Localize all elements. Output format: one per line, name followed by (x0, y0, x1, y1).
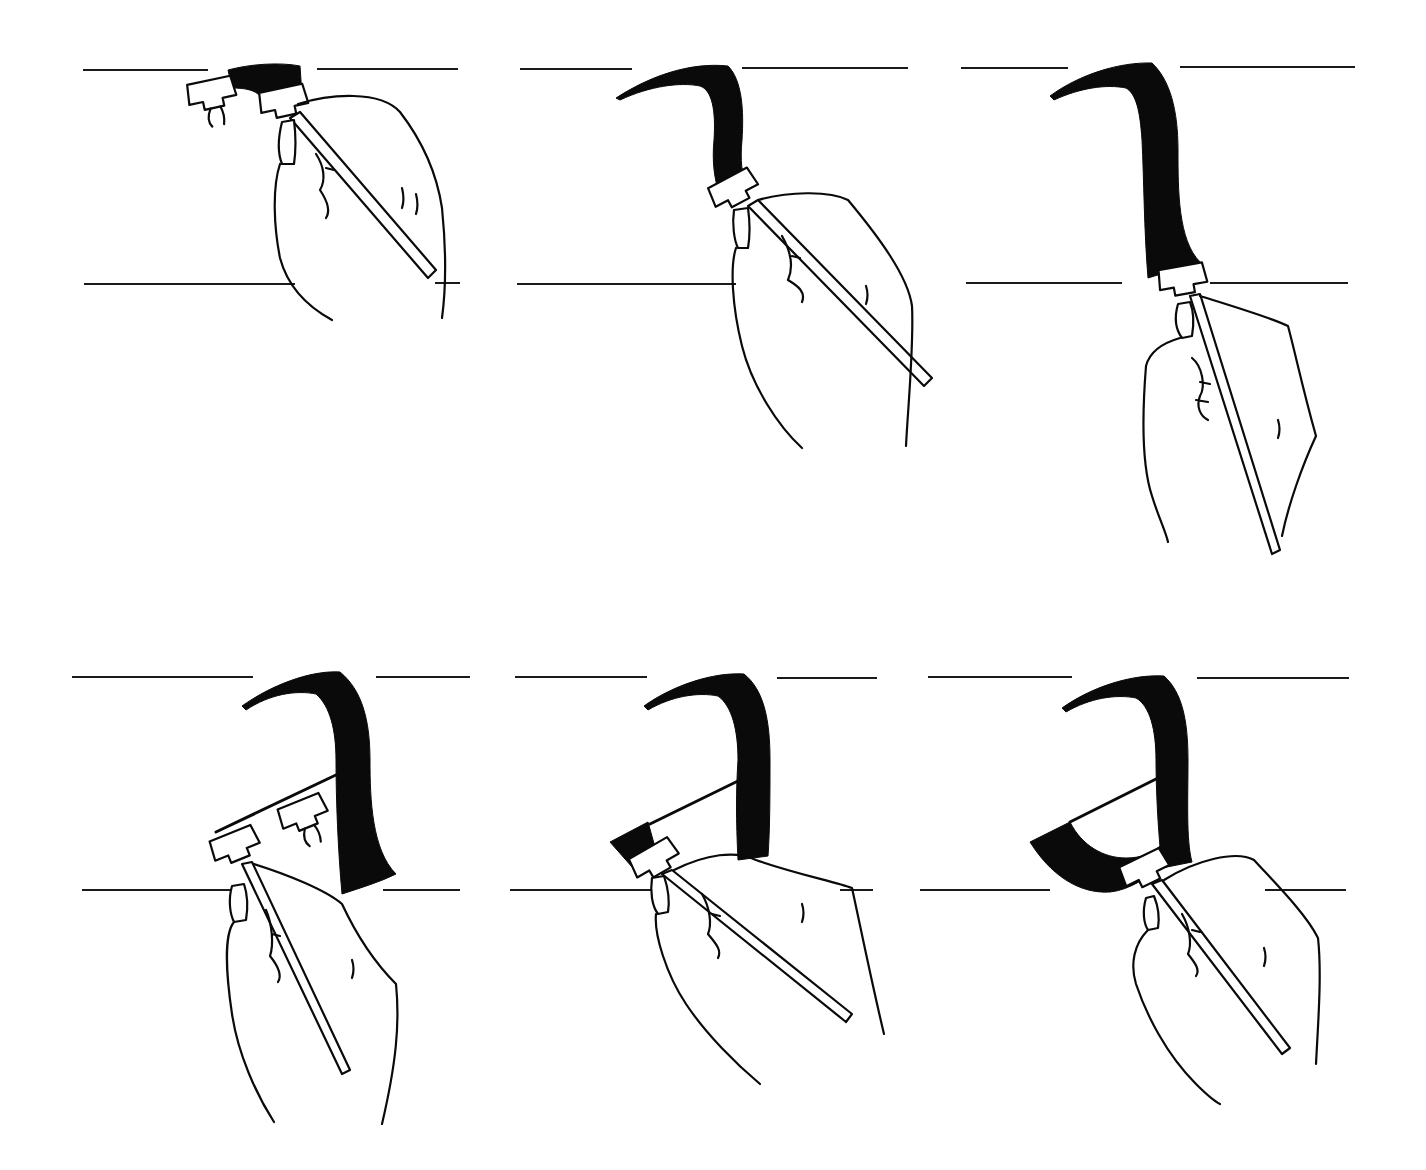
panel-6 (920, 676, 1349, 1104)
ink-stroke (616, 65, 746, 195)
panel-4 (72, 672, 470, 1124)
calligraphy-steps-figure (0, 0, 1426, 1170)
panel-2 (517, 65, 932, 448)
hairline-stroke (1070, 778, 1158, 822)
hand-with-pen (275, 96, 445, 320)
ink-stroke (644, 674, 770, 860)
hand-with-pen (733, 193, 932, 448)
hand-with-pen (651, 855, 884, 1084)
nib-ghost-icon (276, 792, 338, 853)
hand-with-pen (227, 862, 397, 1124)
panel-1 (83, 64, 460, 320)
nib-ghost-icon (185, 75, 242, 130)
guide-lines (72, 677, 470, 890)
hand-with-pen (1144, 294, 1316, 554)
ink-stroke (1050, 63, 1200, 278)
guide-lines (510, 677, 877, 890)
panel-5 (510, 674, 884, 1084)
hairline-stroke (650, 780, 740, 824)
panel-3 (961, 63, 1355, 554)
hand-with-pen (1133, 856, 1319, 1104)
